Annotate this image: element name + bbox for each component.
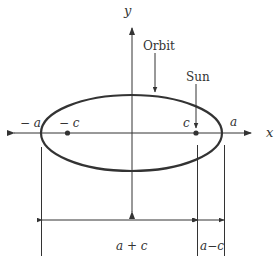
orbit-label: Orbit [143,39,175,53]
x-axis-label: x [266,125,274,140]
neg-c-label: − c [59,116,80,130]
c-label: c [183,116,190,130]
sun-label: Sun [186,70,210,84]
a-plus-c-label: a + c [116,239,148,253]
sun-focus [193,130,198,135]
y-axis-label: y [123,3,132,18]
a-minus-c-label: a−c [200,239,224,253]
focus-left [65,130,70,135]
neg-a-label: − a [20,116,41,130]
a-label: a [230,115,237,129]
orbit-diagram: y x Orbit Sun − a − c c a a + c a−c [0,0,278,264]
